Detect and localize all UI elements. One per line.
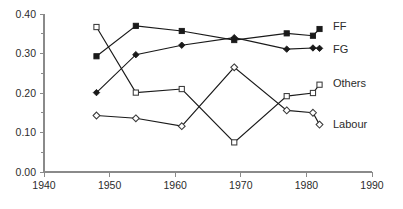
data-point-ff [284,31,289,36]
series-label-labour: Labour [333,118,368,130]
y-axis-tick-label: 0.10 [16,126,37,138]
data-point-ff [310,33,315,38]
data-point-others [310,90,315,95]
data-point-fg [179,42,185,48]
data-point-others [284,94,289,99]
y-axis-tick-label: 0.30 [16,47,37,59]
y-axis-tick-label: 0.40 [16,8,37,20]
data-point-fg [310,45,316,51]
data-point-others [179,86,184,91]
data-point-others [94,24,99,29]
data-point-labour [310,109,317,116]
series-line-fg [96,38,319,93]
x-axis-tick-label: 1980 [295,179,319,191]
x-axis-tick-label: 1960 [164,179,188,191]
series-label-fg: FG [333,43,348,55]
x-axis-tick-label: 1940 [32,179,56,191]
data-point-labour [132,115,139,122]
data-point-ff [317,26,322,31]
series-label-others: Others [333,77,367,89]
data-point-others [317,82,322,87]
data-point-ff [179,28,184,33]
series-line-others [96,27,319,142]
y-axis-tick-label: 0.00 [16,166,37,178]
x-axis-tick-label: 1950 [98,179,122,191]
series-label-ff: FF [333,20,347,32]
x-axis-tick-label: 1990 [360,179,384,191]
data-point-labour [316,121,323,128]
line-chart: 0.000.100.200.300.4019401950196019701980… [0,0,403,209]
data-point-ff [133,23,138,28]
x-axis-tick-label: 1970 [229,179,253,191]
data-point-others [232,140,237,145]
data-point-others [133,90,138,95]
y-axis-tick-label: 0.20 [16,87,37,99]
data-point-labour [93,112,100,119]
data-point-fg [316,45,322,51]
data-point-fg [284,46,290,52]
chart-container: 0.000.100.200.300.4019401950196019701980… [0,0,403,209]
data-point-ff [94,54,99,59]
